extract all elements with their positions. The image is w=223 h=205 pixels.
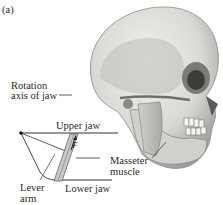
- pivot-point: [19, 131, 23, 135]
- force-label: F: [72, 140, 77, 151]
- upper-jaw-label: Upper jaw: [56, 120, 100, 131]
- lever-arm-label-line1: Lever: [20, 182, 44, 193]
- skull-illustration: [90, 7, 218, 168]
- masseter-label-line2: muscle: [110, 166, 140, 177]
- masseter-label-line1: Masseter: [110, 155, 148, 166]
- rotation-axis-label-line2: axis of jaw: [11, 90, 57, 101]
- panel-label: (a): [2, 4, 14, 15]
- lever-arm-label-line2: arm: [20, 193, 36, 204]
- lower-jaw-label: Lower jaw: [65, 183, 110, 194]
